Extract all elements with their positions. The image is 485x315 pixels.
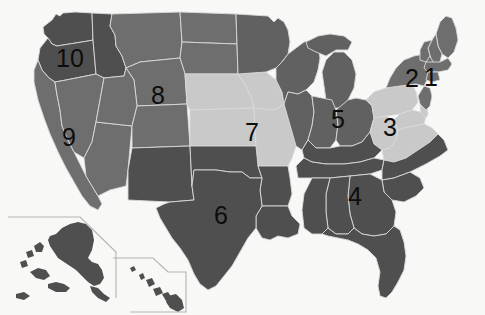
map-graphic: .st-dark { fill: #4f4f4f; } .st-mdark { … — [0, 0, 485, 315]
us-regions-map: .st-dark { fill: #4f4f4f; } .st-mdark { … — [0, 0, 485, 315]
